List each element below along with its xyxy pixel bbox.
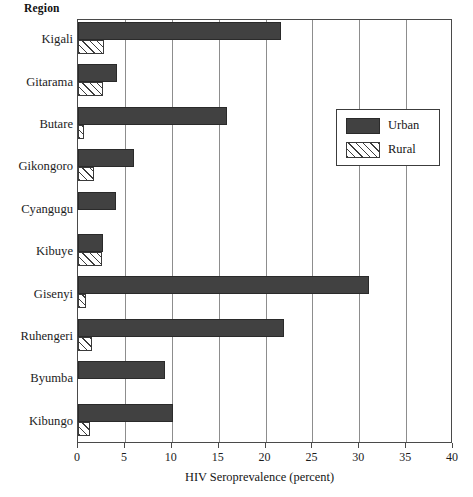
y-label-cyangugu: Cyangugu xyxy=(3,203,73,216)
y-label-byumba: Byumba xyxy=(3,372,73,385)
legend-entry-urban: Urban xyxy=(346,117,419,134)
x-tick-label-40: 40 xyxy=(446,450,458,465)
legend-label-urban: Urban xyxy=(388,118,419,133)
gridline-10 xyxy=(172,20,173,442)
x-tick-label-0: 0 xyxy=(74,450,80,465)
x-axis-title-text: HIV Seroprevalence (percent) xyxy=(139,470,334,484)
y-label-gisenyi: Gisenyi xyxy=(3,288,73,301)
x-tick-mark-40 xyxy=(452,443,453,448)
legend-entry-rural: Rural xyxy=(346,141,416,158)
x-tick-mark-10 xyxy=(171,443,172,448)
gridline-30 xyxy=(359,20,360,442)
bar-rural-gisenyi xyxy=(78,294,86,308)
bar-rural-gikongoro xyxy=(78,167,94,181)
y-label-gikongoro: Gikongoro xyxy=(3,160,73,173)
x-tick-label-10: 10 xyxy=(165,450,177,465)
gridline-35 xyxy=(406,20,407,442)
x-tick-mark-0 xyxy=(77,443,78,448)
bar-rural-ruhengeri xyxy=(78,337,92,351)
bar-urban-kibuye xyxy=(78,234,103,252)
bar-urban-gisenyi xyxy=(78,276,369,294)
bar-urban-butare xyxy=(78,107,227,125)
y-axis-category-labels: KigaliGitaramaButareGikongoroCyanguguKib… xyxy=(0,19,73,443)
bar-rural-kibuye xyxy=(78,252,102,266)
y-label-gitarama: Gitarama xyxy=(3,76,73,89)
gridline-25 xyxy=(312,20,313,442)
bar-rural-gitarama xyxy=(78,82,103,96)
x-tick-mark-15 xyxy=(218,443,219,448)
bar-urban-cyangugu xyxy=(78,192,116,210)
x-tick-label-25: 25 xyxy=(305,450,317,465)
bar-rural-butare xyxy=(78,125,84,139)
gridline-20 xyxy=(266,20,267,442)
bar-urban-ruhengeri xyxy=(78,319,284,337)
x-axis: 0510152025303540 xyxy=(77,443,452,473)
y-label-butare: Butare xyxy=(3,118,73,131)
region-axis-title: Region xyxy=(24,2,60,14)
y-label-kigali: Kigali xyxy=(3,33,73,46)
x-tick-label-5: 5 xyxy=(121,450,127,465)
y-label-kibungo: Kibungo xyxy=(3,415,73,428)
x-axis-title: HIV Seroprevalence (percent) xyxy=(0,470,473,485)
x-tick-mark-30 xyxy=(358,443,359,448)
y-label-kibuye: Kibuye xyxy=(3,245,73,258)
x-tick-label-30: 30 xyxy=(352,450,364,465)
bar-urban-kibungo xyxy=(78,404,173,422)
x-tick-label-15: 15 xyxy=(212,450,224,465)
bar-urban-gikongoro xyxy=(78,149,134,167)
bar-urban-byumba xyxy=(78,361,165,379)
bar-rural-kibungo xyxy=(78,422,90,436)
legend-swatch-rural-icon xyxy=(346,142,380,158)
hiv-seroprevalence-bar-chart: Region KigaliGitaramaButareGikongoroCyan… xyxy=(0,0,473,497)
legend: Urban Rural xyxy=(336,109,440,166)
gridline-15 xyxy=(219,20,220,442)
x-tick-mark-5 xyxy=(124,443,125,448)
bar-urban-gitarama xyxy=(78,64,117,82)
x-tick-mark-35 xyxy=(405,443,406,448)
legend-label-rural: Rural xyxy=(388,142,416,157)
y-label-ruhengeri: Ruhengeri xyxy=(3,330,73,343)
x-tick-label-20: 20 xyxy=(259,450,271,465)
legend-swatch-urban-icon xyxy=(346,118,380,134)
x-tick-mark-20 xyxy=(265,443,266,448)
bar-urban-kigali xyxy=(78,22,281,40)
x-tick-label-35: 35 xyxy=(399,450,411,465)
x-tick-mark-25 xyxy=(311,443,312,448)
bar-rural-kigali xyxy=(78,40,104,54)
plot-frame xyxy=(77,19,452,443)
